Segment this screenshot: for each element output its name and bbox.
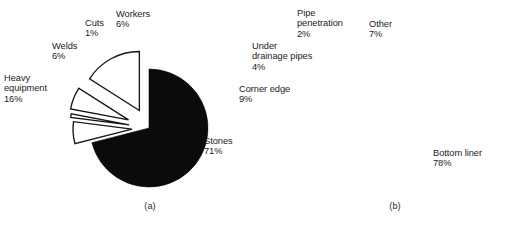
pie-label-bottom-liner: Bottom liner 78% bbox=[433, 148, 482, 169]
pie-label-pipe-penetration: Pipe penetration 2% bbox=[297, 8, 343, 39]
caption-b: (b) bbox=[375, 201, 415, 211]
caption-a: (a) bbox=[130, 201, 170, 211]
pie-label-stones: Stones 71% bbox=[204, 136, 233, 157]
pie-label-heavy-equipment: Heavy equipment 16% bbox=[4, 73, 47, 104]
pie-label-under-drainage-pipes: Under drainage pipes 4% bbox=[252, 41, 312, 72]
pie-label-workers: Workers 6% bbox=[116, 9, 150, 30]
pie-label-corner-edge: Corner edge 9% bbox=[239, 84, 290, 105]
pie-chart-panel-a bbox=[0, 0, 253, 227]
pie-label-cuts: Cuts 1% bbox=[85, 18, 104, 39]
pie-label-other: Other 7% bbox=[369, 19, 392, 40]
figure-two-pie-charts: Heavy equipment 16%Welds 6%Cuts 1%Worker… bbox=[0, 0, 506, 227]
pie-label-welds: Welds 6% bbox=[52, 41, 77, 62]
